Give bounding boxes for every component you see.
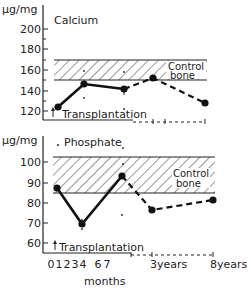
phosphate-tick-60: 60 [27,237,41,250]
calcium-line-solid [58,84,124,107]
x-axis-labels: 0 1 2 3 4 6 7 3years 8years months [48,258,248,288]
calcium-line-dashed [124,78,205,103]
x-tick-2: 2 [64,258,71,271]
phosphate-unit-label: µg/mg [2,134,37,147]
x-tick-0: 0 [48,258,55,271]
phosphate-transplant-label: Transplantation [58,241,144,254]
calcium-transplant-label: Transplantation [61,108,147,121]
calcium-tick-140: 140 [20,85,41,98]
phosphate-tick-80: 80 [27,197,41,210]
phosphate-band-label-2: bone [176,178,201,189]
calcium-unit-label: µg/mg [2,3,37,16]
x-axis-title: months [84,275,126,288]
calcium-tick-200: 200 [20,23,41,36]
x-tick-3: 3 [72,258,79,271]
x-tick-6: 6 [95,258,102,271]
x-tick-3years: 3years [150,258,188,271]
x-tick-1: 1 [56,258,63,271]
calcium-title: Calcium [54,14,98,27]
calcium-tick-160: 160 [20,64,41,77]
x-tick-8years: 8years [210,258,248,271]
phosphate-tick-70: 70 [27,217,41,230]
calcium-y-ticks: 200 180 160 140 120 [20,23,48,118]
x-tick-7: 7 [104,258,111,271]
x-tick-4: 4 [80,258,87,271]
phosphate-tick-100: 100 [20,156,41,169]
phosphate-panel: µg/mg Phosphate 100 90 80 70 60 Control [2,134,217,257]
phosphate-tick-90: 90 [27,177,41,190]
calcium-band-label-2: bone [170,70,195,81]
chart-figure: µg/mg Calcium 200 180 160 140 120 [0,0,251,298]
calcium-tick-120: 120 [20,105,41,118]
calcium-tick-180: 180 [20,43,41,56]
phosphate-title: Phosphate [64,136,122,149]
phosphate-y-ticks: 100 90 80 70 60 [20,156,48,250]
calcium-panel: µg/mg Calcium 200 180 160 140 120 [2,3,209,124]
